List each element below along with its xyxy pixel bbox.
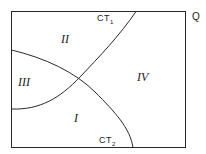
region-i-label: I: [74, 112, 78, 124]
region-iv-label: IV: [137, 71, 148, 83]
corner-label-q: Q: [192, 12, 200, 22]
curve-ct1: [12, 12, 137, 110]
frame: [12, 12, 186, 148]
region-iii-label: III: [18, 76, 30, 88]
curve-ct1-label: CT1: [97, 14, 114, 25]
region-ii-label: II: [61, 33, 69, 45]
curve-ct2: [12, 50, 134, 148]
curve-ct2-label: CT2: [99, 136, 116, 147]
